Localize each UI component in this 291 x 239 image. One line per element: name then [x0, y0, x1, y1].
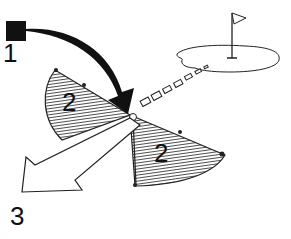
- zone-right: [130, 115, 225, 186]
- label-start: 1: [3, 40, 17, 66]
- label-exit: 3: [10, 203, 24, 229]
- golf-diagram: 1 2 2 3: [0, 0, 291, 239]
- putting-green: [177, 13, 279, 72]
- label-zone-left: 2: [62, 89, 76, 115]
- target-line: [140, 65, 208, 106]
- diagram-canvas: [0, 0, 291, 239]
- label-zone-right: 2: [154, 140, 168, 166]
- flag-icon: [232, 13, 246, 24]
